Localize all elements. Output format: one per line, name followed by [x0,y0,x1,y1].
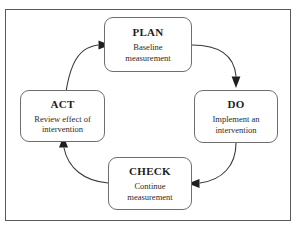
connector-plan-to-do [192,45,236,76]
pdca-cycle-diagram: PLAN Baseline measurement DO Implement a… [0,0,298,228]
node-plan-title: PLAN [132,26,163,39]
connector-check-to-act [64,148,108,183]
node-plan[interactable]: PLAN Baseline measurement [104,17,192,72]
node-do-description: Implement an intervention [195,114,277,135]
node-do[interactable]: DO Implement an intervention [194,90,278,143]
node-act-title: ACT [50,98,74,111]
connector-do-to-check [200,143,236,183]
node-do-title: DO [227,98,244,111]
node-act-description: Review effect of intervention [21,114,104,135]
node-check-description: Continue measurement [109,181,191,202]
node-check-title: CHECK [129,165,171,178]
arrowhead-plan-to-do [232,77,241,89]
node-act[interactable]: ACT Review effect of intervention [20,90,105,142]
node-plan-description: Baseline measurement [105,42,191,63]
node-check[interactable]: CHECK Continue measurement [108,157,192,210]
